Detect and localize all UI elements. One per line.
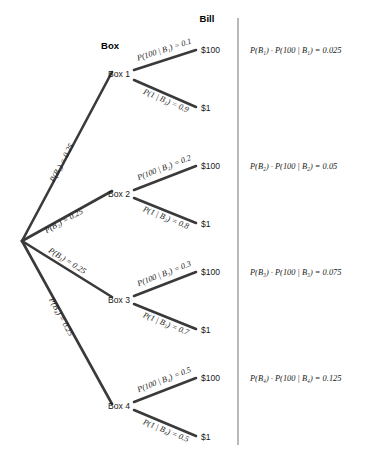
node-box2: Box 2 (108, 189, 130, 199)
node-box1: Box 1 (108, 69, 130, 79)
tree-canvas: Box Bill Box 1 Box 2 Box 3 Box 4 P(B₁) =… (0, 0, 370, 468)
leaf-box4-one: $1 (201, 432, 211, 442)
node-box4: Box 4 (108, 401, 130, 411)
leaf-box4-hundred: $100 (201, 373, 220, 383)
edge-root-to-box3 (22, 241, 112, 297)
probability-tree-diagram: Box Bill Box 1 Box 2 Box 3 Box 4 P(B₁) =… (0, 0, 370, 468)
result-box3: P(B₃) · P(100 | B₃) = 0.075 (249, 268, 341, 277)
edge-label-prior-box2: P(B₂) = 0.25 (42, 207, 84, 236)
edge-label-prior-box4: P(B₄) = 0.25 (47, 295, 76, 337)
edge-label-prior-box1: P(B₁) = 0.25 (47, 142, 75, 184)
leaf-box2-one: $1 (201, 219, 211, 229)
leaf-box1-hundred: $100 (201, 45, 220, 55)
leaf-box3-hundred: $100 (201, 267, 220, 277)
result-box1: P(B₁) · P(100 | B₁) = 0.025 (249, 46, 341, 55)
header-box: Box (101, 40, 120, 51)
edge-label-box1-hundred: P(100 | B₁) = 0.1 (135, 37, 193, 63)
result-box4: P(B₄) · P(100 | B₄) = 0.125 (249, 374, 341, 383)
leaf-box2-hundred: $100 (201, 161, 220, 171)
result-box2: P(B₂) · P(100 | B₂) = 0.05 (249, 162, 337, 171)
leaf-box1-one: $1 (201, 103, 211, 113)
header-bill: Bill (200, 13, 215, 24)
node-box3: Box 3 (108, 295, 130, 305)
leaf-box3-one: $1 (201, 325, 211, 335)
